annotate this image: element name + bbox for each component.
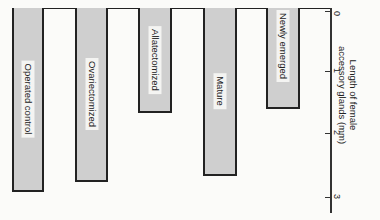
bar-mature: Mature bbox=[203, 8, 237, 176]
tick-label-0: 0 bbox=[332, 11, 342, 21]
tick-label-3: 3 bbox=[332, 194, 342, 204]
axis-title-line-1: Length of female bbox=[348, 46, 359, 144]
bar-newly-emerged: Newly emerged bbox=[266, 8, 300, 109]
bar-label: Ovariectomized bbox=[85, 58, 98, 130]
bar-label: Allatectomized bbox=[149, 26, 162, 94]
bar-ovariectomized: Ovariectomized bbox=[75, 8, 108, 182]
value-axis bbox=[330, 8, 332, 213]
bar-label: Operated control bbox=[22, 61, 35, 138]
axis-title-line-2: accessory glands (mm) bbox=[337, 46, 348, 144]
bar-allatectomized: Allatectomized bbox=[138, 8, 172, 113]
tick-1 bbox=[325, 71, 331, 72]
tick-3 bbox=[325, 197, 331, 198]
tick-2 bbox=[325, 133, 331, 134]
bar-label: Mature bbox=[214, 73, 227, 109]
bar-label: Newly emerged bbox=[277, 10, 290, 82]
tick-0 bbox=[325, 11, 331, 12]
bar-operated-control: Operated control bbox=[12, 8, 44, 192]
axis-title: Length of female accessory glands (mm) bbox=[337, 46, 359, 144]
